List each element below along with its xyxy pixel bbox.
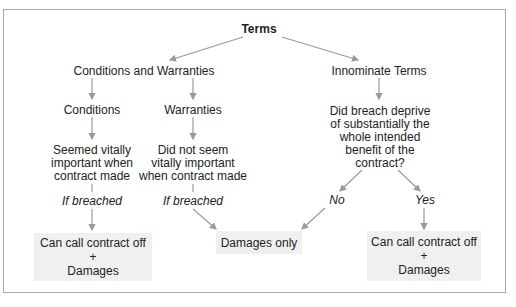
plus-sign: + bbox=[34, 250, 152, 264]
text-line: whole intended bbox=[324, 130, 436, 144]
edge-label-if-breached-warranties: If breached bbox=[153, 194, 233, 208]
text-line: of substantially the bbox=[324, 117, 436, 131]
plus-sign: + bbox=[367, 249, 481, 263]
text-line: vitally important bbox=[138, 156, 248, 170]
text-line: Can call contract off bbox=[34, 236, 152, 250]
outcome-box-left: Can call contract off + Damages bbox=[34, 233, 152, 281]
text-line: Damages bbox=[367, 263, 481, 277]
outcome-box-center: Damages only bbox=[216, 231, 302, 254]
edge-label-yes: Yes bbox=[410, 193, 440, 207]
outcome-box-right: Can call contract off + Damages bbox=[367, 231, 481, 281]
text-line: when contract made bbox=[138, 169, 248, 183]
text-line: Seemed vitally bbox=[42, 143, 142, 157]
node-warranties: Warranties bbox=[153, 103, 233, 117]
node-conditions: Conditions bbox=[50, 103, 134, 117]
text-line: Damages only bbox=[216, 236, 302, 250]
text-line: Did breach deprive bbox=[324, 104, 436, 118]
text-line: Can call contract off bbox=[367, 235, 481, 249]
text-line: Damages bbox=[34, 264, 152, 278]
text-line: important when bbox=[42, 156, 142, 170]
edge-label-if-breached-conditions: If breached bbox=[52, 194, 132, 208]
text-line: benefit of the bbox=[324, 143, 436, 157]
text-line: contract? bbox=[324, 156, 436, 170]
edge-label-no: No bbox=[322, 193, 352, 207]
root-node-terms: Terms bbox=[232, 22, 286, 36]
text-line: Did not seem bbox=[138, 143, 248, 157]
text-line: contract made bbox=[42, 169, 142, 183]
node-innominate-terms: Innominate Terms bbox=[320, 64, 438, 78]
node-conditions-and-warranties: Conditions and Warranties bbox=[60, 64, 228, 78]
